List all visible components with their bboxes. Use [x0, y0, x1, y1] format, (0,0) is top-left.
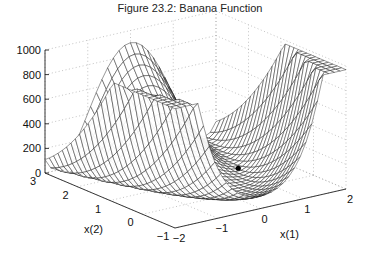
- svg-text:400: 400: [23, 118, 41, 130]
- minimum-marker: [236, 166, 241, 171]
- svg-text:3: 3: [30, 175, 36, 187]
- svg-text:−1: −1: [215, 222, 228, 234]
- svg-text:600: 600: [23, 93, 41, 105]
- svg-text:−2: −2: [173, 232, 186, 244]
- banana-surface-mesh: [45, 43, 346, 200]
- svg-text:0: 0: [127, 216, 133, 228]
- x1-axis-label: x(1): [280, 228, 299, 240]
- svg-text:1: 1: [304, 203, 310, 215]
- svg-text:0: 0: [261, 213, 267, 225]
- svg-text:2: 2: [347, 193, 353, 205]
- svg-text:1: 1: [95, 203, 101, 215]
- x2-axis-label: x(2): [84, 223, 103, 235]
- svg-text:2: 2: [62, 189, 68, 201]
- svg-text:1000: 1000: [17, 44, 41, 56]
- svg-text:200: 200: [23, 142, 41, 154]
- svg-text:800: 800: [23, 69, 41, 81]
- svg-text:−1: −1: [157, 230, 170, 242]
- surface-plot: 02004006008001000−10123−2−1012 x(1) x(2): [0, 0, 380, 256]
